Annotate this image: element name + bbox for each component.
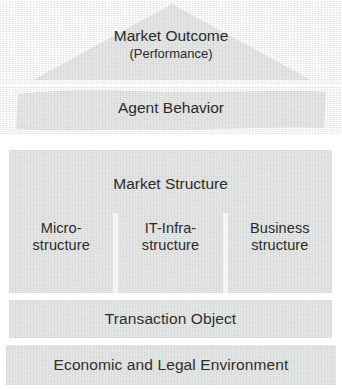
- market-structure-columns: Micro-structure IT-Infra-structure Busin…: [9, 213, 332, 293]
- market-outcome-label: Market Outcome (Performance): [0, 26, 342, 63]
- transaction-object-label: Transaction Object: [105, 310, 236, 328]
- layer-agent-behavior[interactable]: Agent Behavior: [0, 86, 342, 134]
- column-divider-2: [223, 213, 228, 293]
- layer-market-structure[interactable]: Market Structure Micro-structure IT-Infr…: [9, 150, 332, 293]
- column-it-infra-structure[interactable]: IT-Infra-structure: [118, 213, 222, 293]
- column-business-structure[interactable]: Businessstructure: [228, 213, 332, 293]
- micro-structure-line1: Micro-: [41, 220, 82, 236]
- column-micro-structure[interactable]: Micro-structure: [9, 213, 113, 293]
- layer-transaction-object[interactable]: Transaction Object: [9, 300, 332, 338]
- it-infra-structure-line2: structure: [142, 237, 199, 253]
- it-infra-structure-line1: IT-Infra-: [145, 220, 197, 236]
- layer-economic-legal-environment[interactable]: Economic and Legal Environment: [6, 345, 336, 385]
- market-outcome-title: Market Outcome: [0, 26, 342, 45]
- business-structure-line1: Business: [250, 220, 310, 236]
- column-divider-1: [113, 213, 118, 293]
- layer-diagram: Market Outcome (Performance) Agent Behav…: [0, 0, 342, 389]
- market-structure-title: Market Structure: [9, 175, 332, 193]
- business-structure-line2: structure: [251, 237, 308, 253]
- layer-market-outcome[interactable]: Market Outcome (Performance): [0, 0, 342, 84]
- market-outcome-subtitle: (Performance): [0, 45, 342, 63]
- economic-legal-environment-label: Economic and Legal Environment: [54, 356, 289, 374]
- agent-behavior-label: Agent Behavior: [0, 99, 342, 117]
- micro-structure-line2: structure: [33, 237, 90, 253]
